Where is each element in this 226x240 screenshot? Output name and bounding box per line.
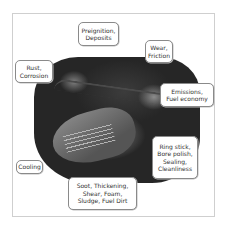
callout-line: Shear, Foam, — [83, 190, 123, 198]
callout-line: Wear, — [150, 44, 167, 52]
callout-soot-thickening: Soot, Thickening, Shear, Foam, Sludge, F… — [68, 177, 137, 210]
callout-line: Preignition, — [82, 27, 116, 35]
callout-line: Rust, — [26, 64, 41, 72]
callout-line: Bore polish, — [157, 150, 192, 158]
callout-preignition-deposits: Preignition, Deposits — [78, 22, 119, 46]
callout-line: Ring stick, — [159, 143, 190, 151]
callout-line: Cleanliness — [158, 165, 192, 173]
callout-line: Cooling — [18, 163, 40, 171]
callout-line: Emissions, — [171, 88, 203, 96]
callout-line: Corrosion — [20, 72, 49, 80]
callout-wear-friction: Wear, Friction — [145, 40, 173, 63]
callout-line: Deposits — [85, 34, 111, 42]
callout-line: Fuel economy — [166, 95, 208, 103]
callout-line: Sludge, Fuel Dirt — [78, 197, 128, 205]
callout-line: Soot, Thickening, — [77, 182, 129, 190]
callout-rust-corrosion: Rust, Corrosion — [15, 60, 53, 83]
callout-cooling: Cooling — [16, 160, 43, 174]
callout-line: Friction — [148, 52, 170, 60]
callout-line: Sealing, — [163, 158, 187, 166]
callout-emissions-fuel-economy: Emissions, Fuel economy — [160, 83, 214, 107]
callout-ring-stick: Ring stick, Bore polish, Sealing, Cleanl… — [152, 136, 198, 179]
